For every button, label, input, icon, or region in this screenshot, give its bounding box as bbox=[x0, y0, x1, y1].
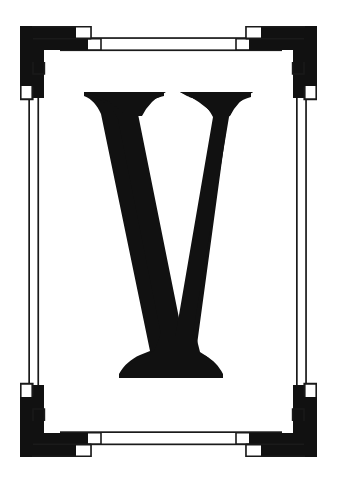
corner-bracket-bottom-right-notch-lower bbox=[246, 445, 261, 456]
hairline-left-outer bbox=[28, 74, 30, 410]
corner-bracket-bottom-left-notch-lower bbox=[76, 445, 91, 456]
corner-bracket-top-right-notch-lower bbox=[305, 86, 316, 99]
hairline-right-outer bbox=[305, 74, 307, 410]
corner-bracket-bottom-right-notch-upper bbox=[305, 384, 316, 397]
corner-bracket-top-left-notch-lower bbox=[21, 86, 32, 99]
corner-bracket-top-right-notch-upper bbox=[246, 27, 261, 38]
hairline-left-inner bbox=[37, 62, 39, 422]
paper-background bbox=[0, 0, 337, 483]
corner-bracket-bottom-left-notch-upper bbox=[21, 384, 32, 397]
artwork-canvas bbox=[0, 0, 337, 483]
corner-bracket-top-left-notch-upper bbox=[76, 27, 91, 38]
decorative-initial-illustration: Decorative initial capital letter V Orna… bbox=[0, 0, 337, 483]
hairline-right-inner bbox=[296, 62, 298, 422]
